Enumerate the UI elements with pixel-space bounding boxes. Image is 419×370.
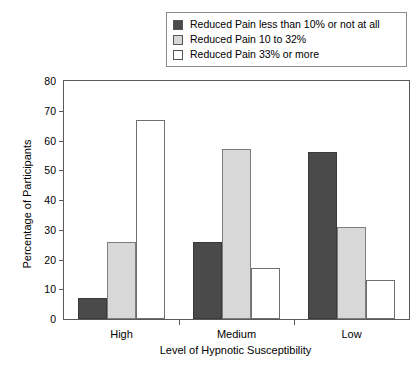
y-axis-tick-label: 50 [44, 164, 56, 176]
bar-chart: Reduced Pain less than 10% or not at all… [0, 0, 419, 370]
bar-low-series-0 [308, 152, 337, 319]
y-axis-tick [59, 230, 64, 231]
legend-label-0: Reduced Pain less than 10% or not at all [190, 19, 380, 30]
legend-swatch-icon-0 [173, 20, 183, 30]
bar-medium-series-2 [251, 268, 280, 319]
chart-legend: Reduced Pain less than 10% or not at all… [166, 12, 407, 67]
y-axis-tick-label: 60 [44, 135, 56, 147]
y-axis-tick [59, 111, 64, 112]
legend-item-1: Reduced Pain 10 to 32% [173, 32, 400, 47]
legend-item-0: Reduced Pain less than 10% or not at all [173, 17, 400, 32]
y-axis-tick [59, 170, 64, 171]
y-axis-tick-label: 70 [44, 105, 56, 117]
x-axis-title: Level of Hypnotic Susceptibility [63, 344, 408, 356]
y-axis-tick [59, 289, 64, 290]
y-axis-tick-label: 30 [44, 224, 56, 236]
legend-label-1: Reduced Pain 10 to 32% [190, 34, 306, 45]
bar-high-series-1 [107, 242, 136, 319]
x-axis-category-label: Medium [217, 328, 256, 340]
y-axis-tick-label: 40 [44, 194, 56, 206]
x-axis-category-label: Low [341, 328, 361, 340]
y-axis-tick [59, 141, 64, 142]
bar-medium-series-1 [222, 149, 251, 319]
bar-high-series-2 [136, 120, 165, 319]
y-axis-title: Percentage of Participants [21, 109, 33, 299]
plot-area: 01020304050607080HighMediumLow [63, 80, 410, 320]
legend-swatch-icon-2 [173, 50, 183, 60]
y-axis-tick [59, 260, 64, 261]
bar-low-series-1 [337, 227, 366, 319]
y-axis-tick-label: 80 [44, 75, 56, 87]
y-axis-tick-label: 0 [50, 313, 56, 325]
x-axis-tick [294, 319, 295, 325]
y-axis-tick-label: 10 [44, 283, 56, 295]
y-axis-tick-label: 20 [44, 254, 56, 266]
y-axis-tick [59, 200, 64, 201]
x-axis-category-label: High [110, 328, 133, 340]
bar-low-series-2 [366, 280, 395, 319]
legend-item-2: Reduced Pain 33% or more [173, 47, 400, 62]
bar-medium-series-0 [193, 242, 222, 319]
x-axis-tick [179, 319, 180, 325]
legend-swatch-icon-1 [173, 35, 183, 45]
bar-high-series-0 [78, 298, 107, 319]
legend-label-2: Reduced Pain 33% or more [190, 49, 319, 60]
